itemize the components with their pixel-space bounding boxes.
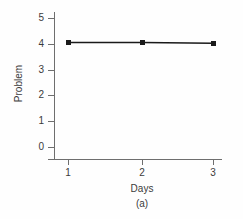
x-axis-tick: [213, 159, 214, 165]
chart-figure: 5 4 3 2 1 0 1 2 3 Problem Days (a): [0, 0, 243, 219]
y-axis-tick: [48, 121, 55, 122]
data-point-marker: [211, 41, 216, 46]
y-axis-tick: [48, 44, 55, 45]
x-axis-line: [48, 159, 222, 160]
x-axis-tick-label: 1: [58, 168, 78, 178]
y-axis-title: Problem: [13, 49, 24, 119]
y-axis-tick: [48, 147, 55, 148]
y-axis-tick: [48, 18, 55, 19]
figure-caption: (a): [102, 198, 182, 209]
x-axis-tick-label: 2: [132, 168, 152, 178]
plot-area: 5 4 3 2 1 0 1 2 3 Problem Days (a): [0, 0, 243, 219]
x-axis-tick: [68, 159, 69, 165]
y-axis-tick-label: 5: [28, 13, 44, 23]
x-axis-tick: [142, 159, 143, 165]
data-point-marker: [140, 40, 145, 45]
y-axis-tick-label: 2: [28, 90, 44, 100]
x-axis-tick-label: 3: [203, 168, 223, 178]
y-axis-tick-label: 0: [28, 142, 44, 152]
x-axis-title: Days: [102, 183, 182, 194]
y-axis-tick: [48, 70, 55, 71]
y-axis-tick-label: 3: [28, 65, 44, 75]
y-axis-line: [54, 12, 55, 160]
y-axis-tick-label: 4: [28, 39, 44, 49]
y-axis-tick: [48, 95, 55, 96]
data-point-marker: [66, 40, 71, 45]
y-axis-tick-label: 1: [28, 116, 44, 126]
